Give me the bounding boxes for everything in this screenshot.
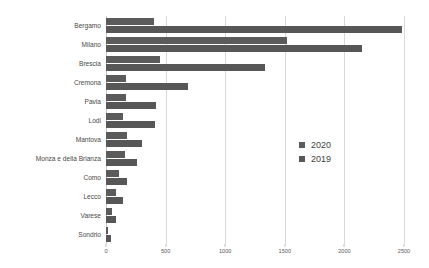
bar-group: [106, 111, 404, 130]
bar-2019: [106, 216, 116, 223]
legend-item-2020[interactable]: 2020: [299, 140, 331, 150]
bar-gap: [106, 158, 404, 160]
bar-2020: [106, 132, 127, 139]
bar-2019: [106, 83, 188, 90]
legend-swatch-icon: [299, 156, 305, 162]
y-tick-label: Varese: [81, 212, 101, 220]
bar-group: [106, 73, 404, 92]
bar-gap: [106, 234, 404, 236]
bar-rows: [106, 16, 404, 244]
bar-2019: [106, 159, 137, 166]
bar-group: [106, 92, 404, 111]
bar-2019: [106, 45, 362, 52]
bar-2020: [106, 56, 160, 63]
bar-2019: [106, 197, 123, 204]
bar-gap: [106, 215, 404, 217]
bar-2019: [106, 235, 111, 242]
bar-2019: [106, 102, 156, 109]
bar-2019: [106, 178, 127, 185]
x-tick-label: 2500: [398, 247, 410, 255]
bar-group: [106, 35, 404, 54]
bar-group: [106, 54, 404, 73]
plot-area: [106, 16, 404, 244]
bar-gap: [106, 139, 404, 141]
bar-gap: [106, 196, 404, 198]
bar-group: [106, 16, 404, 35]
bar-group: [106, 130, 404, 149]
x-tick-label: 1500: [279, 247, 291, 255]
y-tick-label: Cremona: [74, 79, 101, 87]
bar-2020: [106, 151, 125, 158]
x-tick-label: 1000: [219, 247, 231, 255]
bar-2019: [106, 121, 155, 128]
x-tick-label: 500: [161, 247, 170, 255]
bar-2020: [106, 227, 108, 234]
y-tick-label: Brescia: [79, 60, 101, 68]
bar-group: [106, 206, 404, 225]
gridline-2500: [404, 16, 405, 244]
bar-group: [106, 187, 404, 206]
y-axis-labels: BergamoMilanoBresciaCremonaPaviaLodiMant…: [0, 16, 104, 244]
x-tick-label: 2000: [338, 247, 350, 255]
bar-group: [106, 168, 404, 187]
bar-2020: [106, 18, 154, 25]
bar-2019: [106, 26, 402, 33]
bar-2020: [106, 113, 123, 120]
chart-legend: 20202019: [299, 140, 331, 164]
x-tick-label: 0: [104, 247, 107, 255]
y-tick-label: Como: [83, 174, 101, 182]
y-tick-label: Milano: [82, 41, 101, 49]
bar-2020: [106, 170, 119, 177]
legend-label: 2020: [311, 140, 331, 150]
bar-2020: [106, 208, 112, 215]
y-tick-label: Monza e della Brianza: [36, 155, 101, 163]
y-tick-label: Mantova: [76, 136, 101, 144]
bar-2020: [106, 189, 116, 196]
bar-2019: [106, 64, 265, 71]
x-axis-labels: 05001000150020002500: [106, 247, 404, 261]
legend-swatch-icon: [299, 142, 305, 148]
bar-group: [106, 225, 404, 244]
bar-group: [106, 149, 404, 168]
bar-2020: [106, 94, 126, 101]
bar-2019: [106, 140, 142, 147]
bar-2020: [106, 75, 126, 82]
bar-chart-figure: BergamoMilanoBresciaCremonaPaviaLodiMant…: [0, 0, 429, 268]
y-tick-label: Lodi: [89, 117, 101, 125]
y-tick-label: Bergamo: [74, 22, 101, 30]
legend-label: 2019: [311, 154, 331, 164]
y-tick-label: Lecco: [83, 193, 101, 201]
y-tick-label: Sondrio: [78, 231, 101, 239]
y-tick-label: Pavia: [85, 98, 102, 106]
legend-item-2019[interactable]: 2019: [299, 154, 331, 164]
bar-2020: [106, 37, 287, 44]
bar-gap: [106, 177, 404, 179]
